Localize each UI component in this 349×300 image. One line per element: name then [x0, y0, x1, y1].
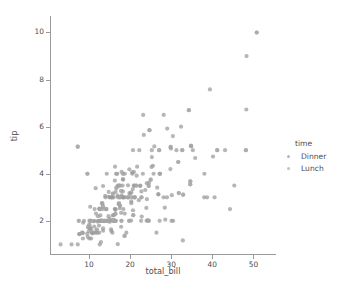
scatter-point: [174, 148, 178, 152]
legend-item-lunch[interactable]: Lunch: [284, 163, 346, 174]
scatter-point: [156, 192, 160, 196]
scatter-point: [169, 145, 173, 149]
legend-entries: DinnerLunch: [284, 151, 346, 174]
scatter-point: [149, 165, 153, 169]
scatter-point: [113, 178, 117, 182]
scatter-point: [193, 156, 197, 160]
x-tick-label: 20: [125, 261, 134, 268]
scatter-point: [115, 172, 119, 176]
x-tick-mark: [253, 255, 254, 259]
scatter-point: [208, 87, 212, 91]
scatter-point: [165, 126, 169, 130]
scatter-point: [143, 188, 147, 192]
scatter-points-layer: [50, 16, 276, 255]
scatter-point: [158, 172, 162, 176]
scatter-point: [121, 207, 125, 211]
scatter-point: [154, 231, 158, 235]
scatter-point: [145, 197, 149, 201]
scatter-point: [244, 54, 248, 58]
scatter-point: [98, 242, 102, 246]
scatter-point: [162, 113, 166, 117]
legend-item-label: Lunch: [301, 164, 324, 173]
scatter-point: [244, 107, 248, 111]
scatter-point: [113, 212, 117, 216]
scatter-point: [181, 238, 185, 242]
scatter-point: [121, 177, 125, 181]
scatter-point: [69, 242, 73, 246]
y-tick-label: 6: [39, 123, 44, 130]
scatter-point: [142, 133, 146, 137]
scatter-point: [106, 214, 110, 218]
scatter-series-dinner: [58, 30, 258, 246]
x-tick-mark: [212, 255, 213, 259]
scatter-point: [98, 207, 102, 211]
scatter-point: [85, 172, 89, 176]
scatter-point: [131, 148, 135, 152]
scatter-point: [131, 208, 135, 212]
scatter-point: [187, 108, 191, 112]
scatter-point: [228, 207, 232, 211]
scatter-point: [144, 206, 148, 210]
scatter-point: [150, 148, 154, 152]
scatter-point: [111, 191, 115, 195]
scatter-point: [101, 184, 105, 188]
x-tick-mark: [89, 255, 90, 259]
scatter-point: [77, 219, 81, 223]
y-tick-mark: [46, 221, 50, 222]
scatter-point: [129, 199, 133, 203]
scatter-point: [139, 189, 143, 193]
scatter-point: [87, 236, 91, 240]
scatter-point: [127, 219, 131, 223]
scatter-point: [180, 148, 184, 152]
scatter-point: [81, 236, 85, 240]
scatter-point: [76, 145, 80, 149]
scatter-point: [110, 195, 114, 199]
scatter-plot-figure: 246810 1020304050 total_bill tip time Di…: [0, 0, 349, 300]
y-axis-label: tip: [9, 131, 19, 142]
scatter-point: [58, 242, 62, 246]
scatter-point: [113, 207, 117, 211]
scatter-point: [131, 213, 135, 217]
scatter-point: [113, 165, 117, 169]
scatter-point: [232, 183, 236, 187]
scatter-point: [149, 178, 153, 182]
legend-dot-icon: [287, 167, 291, 171]
legend-item-dinner[interactable]: Dinner: [284, 151, 346, 162]
scatter-point: [177, 191, 181, 195]
plot-axes-area: 246810 1020304050: [50, 16, 276, 255]
scatter-point: [76, 242, 80, 246]
scatter-point: [150, 155, 154, 159]
scatter-point: [123, 211, 127, 215]
scatter-point: [152, 144, 156, 148]
scatter-point: [101, 229, 105, 233]
scatter-point: [118, 195, 122, 199]
scatter-point: [105, 219, 109, 223]
scatter-point: [176, 160, 180, 164]
y-tick-mark: [46, 174, 50, 175]
x-tick-label: 10: [84, 261, 93, 268]
scatter-point: [121, 189, 125, 193]
y-tick-label: 8: [39, 76, 44, 83]
scatter-point: [90, 219, 94, 223]
legend-title: time: [295, 139, 346, 148]
scatter-point: [170, 193, 174, 197]
scatter-point: [119, 225, 123, 229]
y-tick-label: 10: [35, 29, 44, 36]
scatter-point: [105, 172, 109, 176]
scatter-point: [140, 215, 144, 219]
scatter-point: [116, 242, 120, 246]
scatter-point: [118, 183, 122, 187]
scatter-point: [119, 211, 123, 215]
scatter-point: [157, 148, 161, 152]
x-tick-label: 40: [208, 261, 217, 268]
scatter-point: [89, 228, 93, 232]
scatter-point: [215, 148, 219, 152]
scatter-point: [112, 219, 116, 223]
scatter-point: [135, 174, 139, 178]
scatter-point: [81, 221, 85, 225]
scatter-point: [119, 219, 123, 223]
legend: time DinnerLunch: [284, 139, 346, 175]
scatter-point: [205, 195, 209, 199]
scatter-point: [155, 186, 159, 190]
scatter-point: [189, 144, 193, 148]
